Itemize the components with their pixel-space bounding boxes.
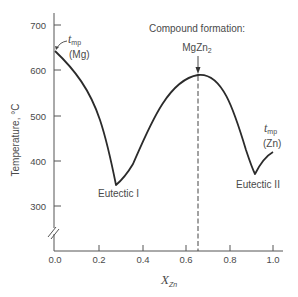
y-tick-label: 600	[30, 65, 46, 76]
eutectic-1-label: Eutectic I	[98, 188, 139, 199]
svg-text:tmp: tmp	[264, 121, 277, 136]
y-axis: 700 600 500 400 300 Temperature, °C	[10, 13, 61, 251]
compound-formation-title: Compound formation:	[149, 23, 245, 34]
x-tick-label: 0.6	[179, 254, 192, 265]
svg-text:(Mg): (Mg)	[69, 49, 90, 60]
y-tick-label: 400	[30, 156, 46, 167]
x-tick-label: 1.0	[266, 254, 279, 265]
svg-text:tmp: tmp	[68, 32, 81, 47]
phase-diagram-chart: 700 600 500 400 300 Temperature, °C 0.0 …	[0, 0, 298, 297]
y-axis-label: Temperature, °C	[10, 104, 21, 177]
axis-break-mark	[48, 227, 56, 237]
arrow-down-icon	[196, 67, 201, 74]
x-axis-label: XZn	[160, 272, 177, 288]
compound-name: MgZn2	[182, 42, 212, 54]
x-tick-label: 0.2	[92, 254, 105, 265]
zn-melting-point-annotation: tmp (Zn)	[263, 121, 281, 149]
liquidus-curve	[55, 51, 273, 185]
svg-text:(Zn): (Zn)	[263, 138, 281, 149]
x-tick-label: 0.4	[136, 254, 149, 265]
x-axis: 0.0 0.2 0.4 0.6 0.8 1.0 XZn	[48, 245, 283, 288]
x-tick-label: 0.0	[48, 254, 61, 265]
y-tick-label: 300	[30, 201, 46, 212]
compound-annotation: Compound formation: MgZn2	[149, 23, 245, 74]
x-tick-label: 0.8	[223, 254, 236, 265]
y-tick-label: 500	[30, 111, 46, 122]
axis-break-mark	[51, 229, 59, 239]
eutectic-2-label: Eutectic II	[236, 179, 280, 190]
y-tick-label: 700	[30, 20, 46, 31]
